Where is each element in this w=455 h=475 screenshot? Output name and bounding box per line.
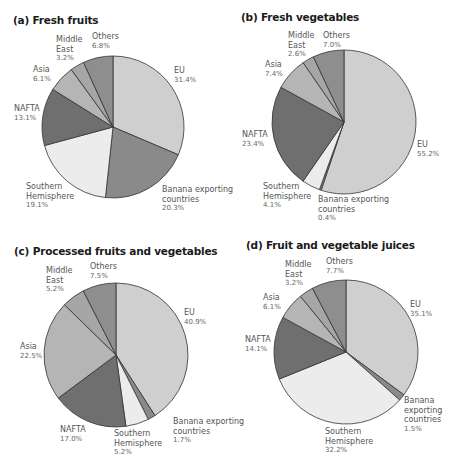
label-middle-east: MiddleEast3.2% bbox=[285, 260, 311, 289]
label-others: Others7.7% bbox=[326, 257, 353, 276]
label-nafta: NAFTA14.1% bbox=[245, 335, 271, 354]
pie-chart bbox=[0, 0, 455, 475]
label-southern-hemisphere: SouthernHemisphere32.2% bbox=[325, 427, 373, 456]
label-asia: Asia6.1% bbox=[263, 293, 281, 312]
label-eu: EU35.1% bbox=[410, 300, 432, 319]
label-banana: Bananaexportingcountries1.5% bbox=[404, 396, 442, 434]
